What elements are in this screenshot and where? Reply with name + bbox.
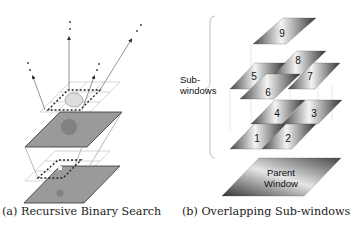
subwindow-2-label: 2: [285, 133, 291, 144]
subwindow-8-label: 8: [295, 55, 301, 66]
subwindow-3-label: 3: [311, 108, 317, 119]
parent-label-line1: Parent: [267, 167, 295, 178]
bottom-plane: [24, 166, 120, 203]
caption-b: (b) Overlapping Sub-windows: [182, 205, 350, 218]
subwindow-7-label: 7: [307, 71, 313, 82]
subwindow-4-label: 4: [274, 108, 280, 119]
subwindow-1-label: 1: [254, 133, 260, 144]
panel-overlapping-subwindows: 9 8 5 7 6 4 3 1 2 Parent Window Sub- win…: [180, 0, 361, 230]
subwindow-5-label: 5: [251, 71, 257, 82]
parent-label-line2: Window: [264, 178, 298, 189]
brace-label-line2: windows: [180, 85, 217, 96]
subwindow-9-label: 9: [279, 28, 285, 39]
subwindow-diagram: 9 8 5 7 6 4 3 1 2 Parent Window Sub- win…: [180, 0, 361, 230]
caption-a: (a) Recursive Binary Search: [2, 205, 161, 218]
brace-label-line1: Sub-: [180, 74, 200, 85]
panel-recursive-binary-search: (a) Recursive Binary Search: [0, 0, 180, 230]
recursive-search-diagram: [0, 0, 180, 230]
subwindow-6-label: 6: [265, 87, 271, 98]
